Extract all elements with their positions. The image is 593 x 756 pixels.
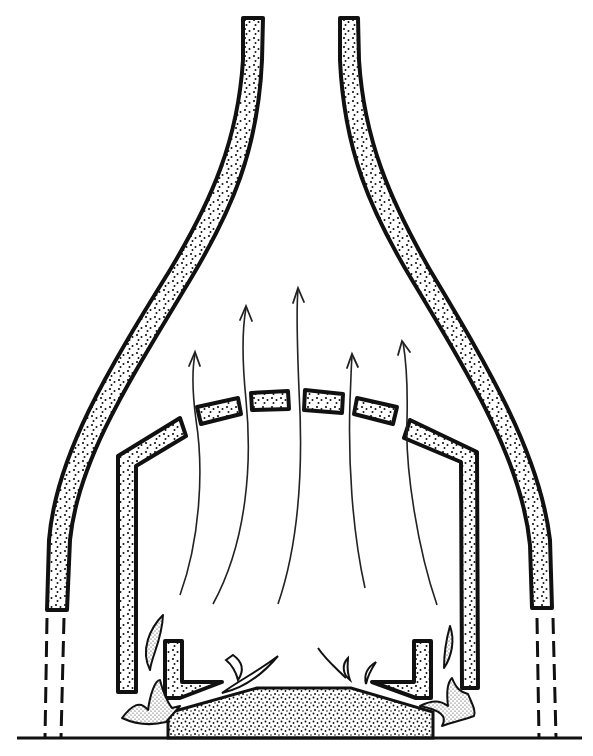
- arrowhead-icon: [293, 288, 304, 303]
- arch-brick-1: [197, 398, 241, 424]
- left-firedog: [165, 641, 222, 698]
- flow-arrow-1: [180, 354, 200, 595]
- arrowhead-icon: [240, 306, 252, 321]
- flow-arrow-5: [403, 342, 437, 605]
- right-chimney-wall: [340, 18, 552, 608]
- flame-right-tongue: [444, 626, 452, 668]
- hot-air-flow-arrows: [180, 288, 437, 605]
- flame-right-lick-1: [318, 648, 346, 678]
- perforated-inner-arch: [197, 390, 397, 424]
- flow-arrow-3: [278, 290, 301, 604]
- arch-brick-3: [304, 390, 343, 413]
- fireplace-diagram: [0, 0, 593, 756]
- flow-arrow-4: [350, 356, 365, 588]
- arch-brick-4: [354, 398, 397, 424]
- arch-brick-2: [251, 391, 289, 410]
- flame-left-tongue: [146, 615, 163, 670]
- arrowhead-icon: [347, 354, 358, 368]
- flow-arrow-2: [213, 308, 248, 604]
- stippled-fuel-bed: [168, 688, 433, 738]
- flame-left-lick-1: [226, 655, 242, 680]
- right-firedog: [372, 641, 431, 698]
- left-chimney-wall: [47, 18, 263, 610]
